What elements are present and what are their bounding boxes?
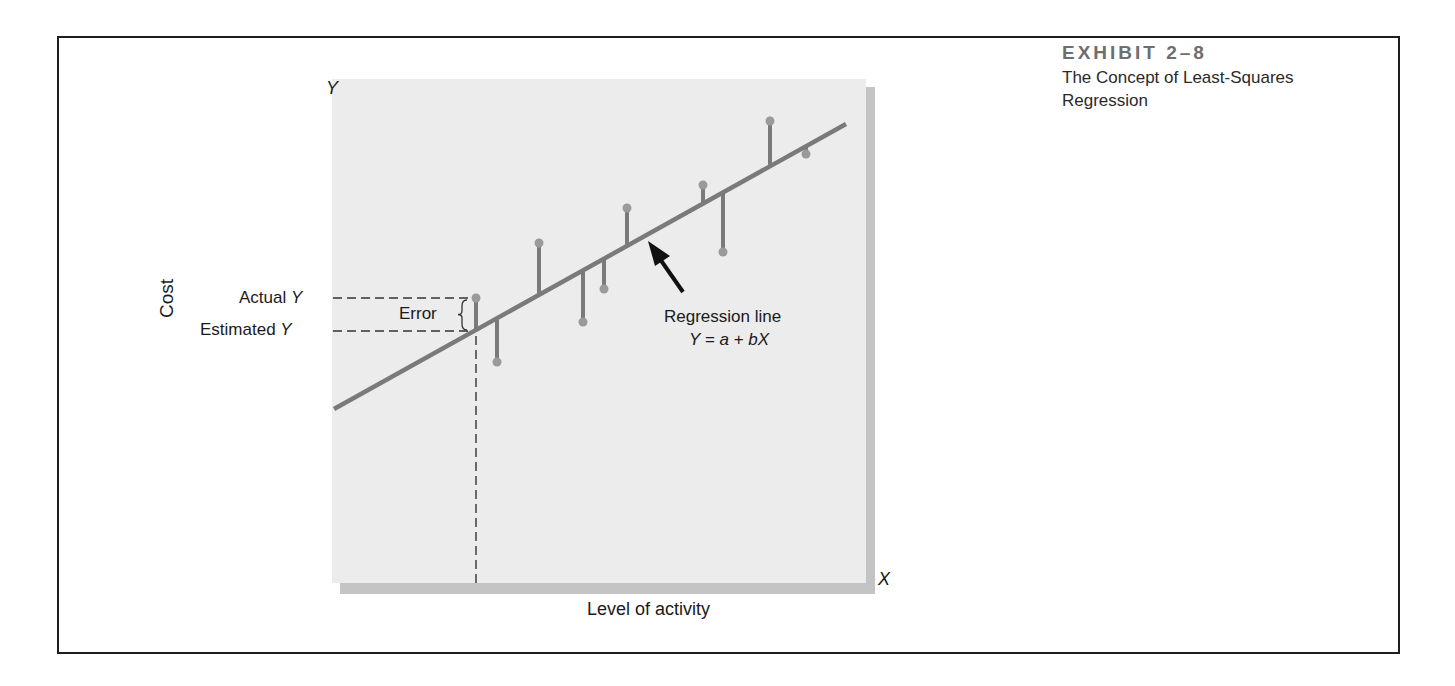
exhibit-caption: EXHIBIT 2–8 The Concept of Least-Squares…: [1062, 42, 1362, 112]
plot-area: [332, 79, 866, 583]
regression-equation: Y = a + bX: [689, 330, 769, 350]
estimated-y-var: Y: [280, 320, 291, 339]
exhibit-number: EXHIBIT 2–8: [1062, 42, 1362, 64]
data-point: [493, 358, 502, 367]
estimated-y-label: Estimated Y: [200, 320, 292, 340]
actual-y-var: Y: [291, 288, 302, 307]
data-point: [472, 294, 481, 303]
x-axis-letter: X: [878, 569, 890, 590]
error-label: Error: [399, 304, 437, 324]
data-point: [579, 318, 588, 327]
data-point: [600, 285, 609, 294]
actual-y-text: Actual: [239, 288, 291, 307]
data-point: [719, 248, 728, 257]
data-point: [766, 117, 775, 126]
actual-y-label: Actual Y: [239, 288, 302, 308]
exhibit-title: The Concept of Least-Squares Regression: [1062, 66, 1362, 112]
y-axis-label: Cost: [156, 279, 178, 318]
regression-line-label: Regression line: [664, 307, 781, 327]
x-axis-label: Level of activity: [587, 599, 710, 620]
data-point: [802, 150, 811, 159]
y-axis-letter: Y: [326, 78, 338, 99]
data-point: [623, 204, 632, 213]
data-point: [535, 239, 544, 248]
data-point: [699, 181, 708, 190]
estimated-y-text: Estimated: [200, 320, 280, 339]
